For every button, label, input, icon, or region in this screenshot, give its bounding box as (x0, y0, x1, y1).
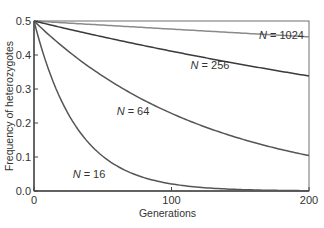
heterozygote-frequency-chart: 0.00.10.20.30.40.50100200GenerationsFreq… (0, 0, 324, 228)
x-tick-label: 100 (162, 194, 180, 206)
y-tick-label: 0.1 (16, 151, 31, 163)
y-tick-label: 0.3 (16, 83, 31, 95)
y-tick-label: 0.2 (16, 117, 31, 129)
axes: 0.00.10.20.30.40.50100200GenerationsFreq… (3, 15, 318, 219)
curve-label: N = 1024 (259, 29, 304, 41)
curve-n=64 (34, 21, 309, 156)
chart-svg: 0.00.10.20.30.40.50100200GenerationsFreq… (0, 0, 324, 228)
y-tick-label: 0.5 (16, 15, 31, 27)
curve-n=16 (34, 21, 309, 191)
labels: N = 1024N = 256N = 64N = 16 (73, 29, 304, 180)
x-tick-label: 0 (31, 194, 37, 206)
curve-label: N = 64 (117, 105, 150, 117)
curve-label: N = 16 (73, 168, 106, 180)
y-axis-label: Frequency of heterozygotes (3, 41, 15, 171)
y-tick-label: 0.0 (16, 185, 31, 197)
y-tick-label: 0.4 (16, 49, 31, 61)
curves (34, 21, 309, 191)
plot-frame (34, 21, 309, 191)
x-axis-label: Generations (139, 207, 196, 219)
x-tick-label: 200 (300, 194, 318, 206)
curve-label: N = 256 (191, 59, 230, 71)
